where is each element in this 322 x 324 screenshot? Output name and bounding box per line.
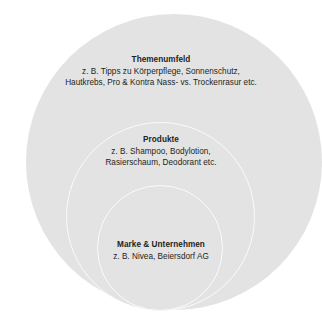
label-themenumfeld-line-2: Hautkrebs, Pro & Kontra Nass- vs. Trocke… bbox=[0, 78, 322, 89]
label-themenumfeld: Themenumfeld z. B. Tipps zu Körperpflege… bbox=[0, 55, 322, 88]
label-produkte-line-2: Rasierschaum, Deodorant etc. bbox=[0, 158, 322, 169]
label-marke-unternehmen-line-1: z. B. Nivea, Beiersdorf AG bbox=[0, 252, 322, 263]
nested-circles-diagram: Themenumfeld z. B. Tipps zu Körperpflege… bbox=[0, 0, 322, 324]
label-marke-unternehmen: Marke & Unternehmen z. B. Nivea, Beiersd… bbox=[0, 240, 322, 263]
label-produkte-title: Produkte bbox=[0, 135, 322, 146]
label-themenumfeld-title: Themenumfeld bbox=[0, 55, 322, 66]
label-produkte-line-1: z. B. Shampoo, Bodylotion, bbox=[0, 147, 322, 158]
label-produkte: Produkte z. B. Shampoo, Bodylotion, Rasi… bbox=[0, 135, 322, 168]
label-marke-unternehmen-title: Marke & Unternehmen bbox=[0, 240, 322, 251]
label-themenumfeld-line-1: z. B. Tipps zu Körperpflege, Sonnenschut… bbox=[0, 67, 322, 78]
